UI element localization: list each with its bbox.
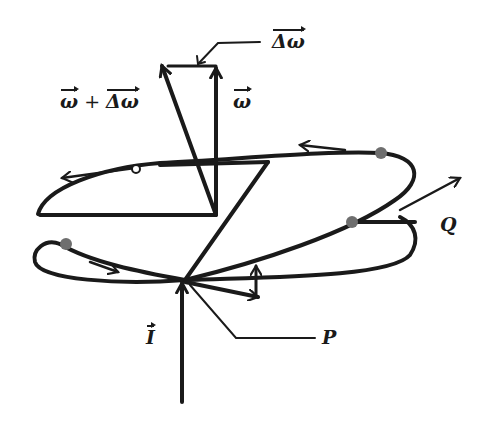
- orbit-arrow-top-right: [300, 145, 345, 150]
- label-P: P: [322, 326, 336, 348]
- Q-arrow: [400, 178, 460, 210]
- P-pointer: [190, 285, 315, 338]
- lower-inner-arc: [60, 244, 185, 280]
- delta-omega-pointer: [198, 42, 260, 64]
- label-Q: Q: [440, 213, 457, 235]
- orbit-point-top-left: [132, 165, 140, 173]
- orbit-point-left: [60, 238, 72, 250]
- orbit-arrow-top-left: [62, 168, 135, 178]
- orbit-point-right: [346, 216, 358, 228]
- small-vector-right: [185, 282, 258, 297]
- orbit-point-top-right: [375, 147, 387, 159]
- label-delta-omega: Δω: [272, 30, 305, 52]
- label-I: I: [146, 326, 155, 348]
- label-omega-plus-delta-omega: ω + Δω: [60, 90, 139, 112]
- label-omega: ω: [233, 90, 251, 112]
- omega-plus-delta-vector: [162, 66, 216, 215]
- precession-diagram: [0, 0, 487, 434]
